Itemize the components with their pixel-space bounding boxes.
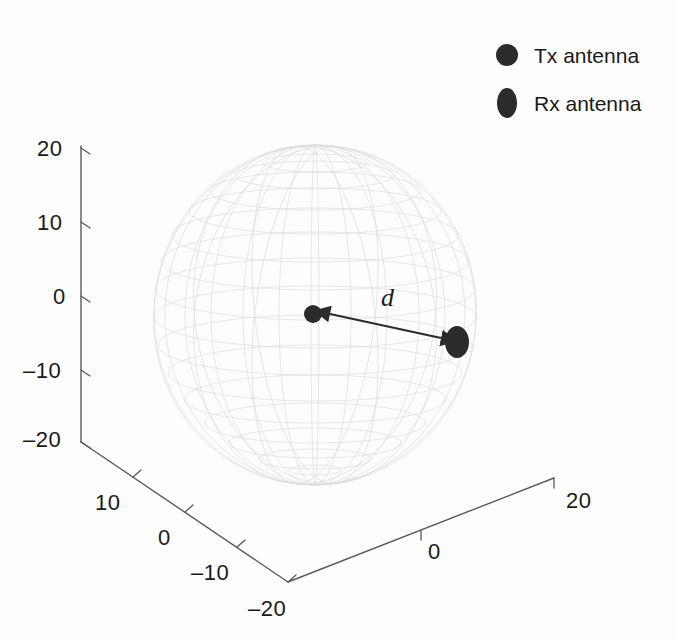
y-tick-label-neg20: –20 [248, 596, 286, 622]
x-tick-label-0: 0 [428, 539, 441, 565]
z-tick-label-0: 0 [53, 284, 66, 310]
distance-label: d [381, 283, 394, 313]
z-tick-label-20: 20 [37, 136, 62, 162]
y-tick-label-10: 10 [95, 490, 120, 516]
z-axis-ticks [81, 148, 90, 448]
legend-label-tx: Tx antenna [534, 44, 639, 68]
legend-label-rx: Rx antenna [534, 92, 641, 116]
legend-marker-rx [497, 88, 517, 118]
y-tick-label-0: 0 [158, 525, 171, 551]
z-tick-label-neg10: –10 [23, 358, 61, 384]
axes-frame [81, 146, 554, 582]
z-tick-label-neg20: –20 [23, 427, 61, 453]
x-tick-label-20: 20 [566, 488, 591, 514]
rx-antenna-marker [445, 326, 469, 358]
legend-marker-tx [496, 44, 518, 66]
y-tick-label-neg10: –10 [191, 560, 229, 586]
x-axis-ticks [421, 478, 554, 540]
distance-arrow [330, 314, 441, 338]
z-tick-label-10: 10 [37, 210, 62, 236]
tx-antenna-marker [304, 305, 322, 323]
